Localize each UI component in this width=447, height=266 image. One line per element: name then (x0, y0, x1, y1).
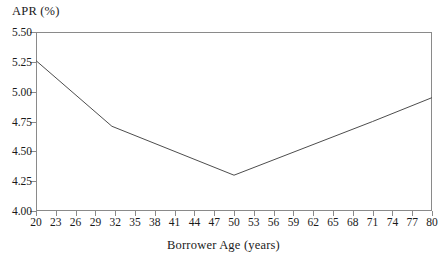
data-line-layer (36, 32, 432, 211)
x-tick-label: 32 (109, 216, 121, 228)
y-tick-label: 4.00 (0, 205, 32, 217)
x-tick-label: 74 (387, 216, 399, 228)
x-axis-tick-labels: 2023262932353841444750535659626568717477… (36, 216, 432, 232)
y-tick-label: 5.50 (0, 26, 32, 38)
x-tick-label: 29 (90, 216, 102, 228)
x-tick-label: 80 (426, 216, 438, 228)
y-axis-title: APR (%) (12, 4, 60, 19)
x-axis-title: Borrower Age (years) (0, 238, 447, 253)
x-tick-label: 71 (367, 216, 379, 228)
y-tick-label: 4.75 (0, 116, 32, 128)
apr-line-series (36, 61, 432, 176)
x-tick-label: 62 (307, 216, 319, 228)
x-tick-label: 44 (189, 216, 201, 228)
x-tick-label: 59 (288, 216, 300, 228)
x-tick-label: 23 (50, 216, 62, 228)
x-tick-label: 56 (268, 216, 280, 228)
x-tick-label: 53 (248, 216, 260, 228)
y-tick-label: 5.25 (0, 56, 32, 68)
x-tick-label: 65 (327, 216, 339, 228)
y-tick-label: 5.00 (0, 86, 32, 98)
y-tick-label: 4.50 (0, 145, 32, 157)
y-axis-tick-labels: 5.505.255.004.754.504.254.00 (0, 32, 32, 211)
x-tick-label: 41 (169, 216, 181, 228)
x-tick-label: 35 (129, 216, 141, 228)
apr-by-borrower-age-chart: APR (%) 5.505.255.004.754.504.254.00 202… (0, 0, 447, 266)
x-tick-label: 50 (228, 216, 240, 228)
x-tick-label: 47 (208, 216, 220, 228)
x-tick-label: 77 (406, 216, 418, 228)
x-tick-label: 68 (347, 216, 359, 228)
y-tick-label: 4.25 (0, 175, 32, 187)
x-tick-label: 26 (70, 216, 82, 228)
x-tick-label: 20 (30, 216, 42, 228)
x-tick-label: 38 (149, 216, 161, 228)
